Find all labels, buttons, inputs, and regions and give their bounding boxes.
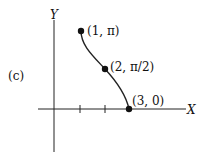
x-axis-label: X [187,104,196,116]
panel-label: (c) [8,70,24,82]
point-1 [78,28,84,34]
point-2 [102,66,108,72]
point-1-label: (1, π) [87,25,120,37]
point-2-label: (2, π/2) [110,61,154,73]
y-axis-label: Y [50,9,58,21]
point-3-label: (3, 0) [132,95,164,107]
